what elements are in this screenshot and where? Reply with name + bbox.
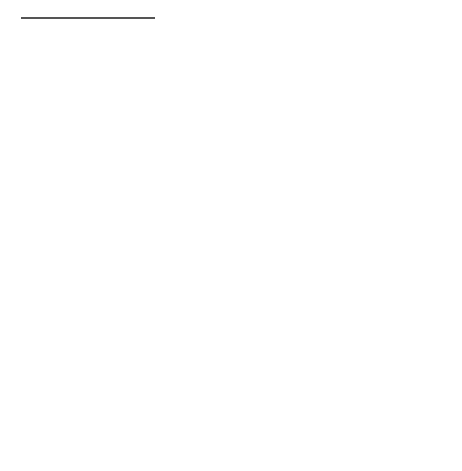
lane-system (21, 17, 155, 19)
